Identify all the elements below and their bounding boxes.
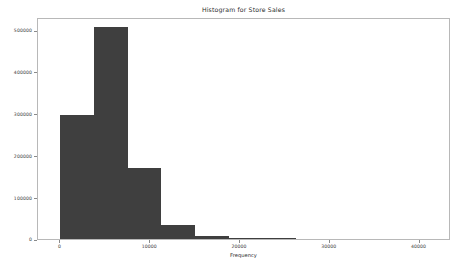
y-tick-label: 500000 xyxy=(14,28,32,33)
x-tick-label: 10000 xyxy=(129,244,169,249)
histogram-bars xyxy=(38,19,449,239)
histogram-bar xyxy=(195,236,229,239)
y-tick-label: 0 xyxy=(29,237,32,242)
histogram-bar xyxy=(262,238,296,239)
x-tick-mark xyxy=(239,240,240,243)
x-axis-label: Frequency xyxy=(37,252,450,258)
histogram-bar xyxy=(60,115,94,239)
x-tick-label: 40000 xyxy=(399,244,439,249)
histogram-bar xyxy=(128,168,162,239)
histogram-bar xyxy=(94,27,128,239)
y-tick-label: 300000 xyxy=(14,112,32,117)
x-tick-mark xyxy=(419,240,420,243)
x-tick-mark xyxy=(59,240,60,243)
y-tick-label: 400000 xyxy=(14,70,32,75)
histogram-figure: Histogram for Store Sales 01000002000003… xyxy=(0,0,463,268)
x-tick-label: 20000 xyxy=(219,244,259,249)
x-tick-label: 0 xyxy=(39,244,79,249)
histogram-bar xyxy=(229,238,263,239)
y-tick-mark xyxy=(34,240,37,241)
histogram-bar xyxy=(161,225,195,239)
chart-title: Histogram for Store Sales xyxy=(37,6,450,13)
y-tick-label: 200000 xyxy=(14,154,32,159)
x-tick-mark xyxy=(149,240,150,243)
y-tick-label: 100000 xyxy=(14,196,32,201)
x-tick-label: 30000 xyxy=(309,244,349,249)
plot-area xyxy=(37,18,450,240)
x-tick-mark xyxy=(329,240,330,243)
